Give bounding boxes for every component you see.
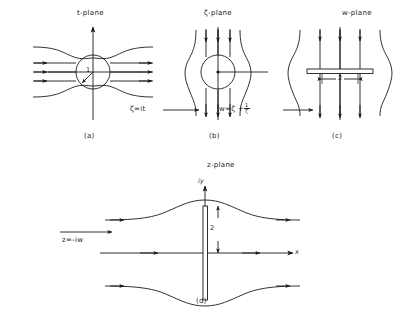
panel-a-streamline — [93, 85, 153, 97]
panel-a-title: t-plane — [77, 9, 104, 17]
panel-b-center-dot — [216, 70, 219, 73]
fraction-denominator: ζ — [244, 109, 249, 114]
panel-d-streamline — [205, 200, 300, 220]
transformation-w-to-z-rhs: -iw — [72, 236, 83, 244]
figure-linework: | under plate --> — [0, 0, 401, 315]
panel-d-caption: (d) — [196, 297, 207, 305]
transformation-t-to-zeta: ζ=it — [130, 105, 146, 113]
conformal-mapping-figure: | under plate --> — [0, 0, 401, 315]
panel-c-plate-body — [307, 69, 373, 74]
panel-d-y-axis-label: iy — [198, 177, 204, 185]
panel-d-title: z-plane — [207, 161, 235, 169]
panel-a-streamline — [93, 47, 153, 59]
panel-b-caption: (b) — [209, 132, 220, 140]
panel-d-dimension-label: 2 — [210, 224, 214, 232]
panel-a-caption: (a) — [84, 132, 95, 140]
panel-a-radius-label: 1 — [86, 66, 90, 74]
panel-d-streamline — [105, 286, 205, 306]
panel-c-dimension-label: 2 — [338, 74, 342, 82]
panel-b-streamline — [185, 30, 196, 116]
transformation-arrows — [60, 110, 313, 232]
panel-c-caption: (c) — [332, 132, 342, 140]
panel-d-artwork — [100, 186, 300, 306]
panel-c-streamline — [380, 30, 392, 116]
transformation-w-to-z: z=-iw — [62, 236, 83, 244]
panel-b-title: ζ-plane — [204, 9, 232, 17]
transformation-zeta-to-w-rhs-head: ζ + — [231, 105, 244, 113]
panel-d-x-axis-label: x — [295, 248, 299, 256]
panel-a-streamline — [33, 47, 93, 59]
panel-d-plate-body — [203, 206, 208, 300]
panel-d-streamline — [105, 200, 205, 220]
panel-c-title: w-plane — [342, 9, 372, 17]
panel-c-streamline — [288, 30, 300, 116]
transformation-t-to-zeta-rhs: it — [140, 105, 145, 113]
transformation-zeta-to-w-fraction: 1ζ — [244, 103, 249, 115]
panel-d-streamline — [205, 286, 300, 306]
panel-a-streamline — [33, 85, 93, 97]
transformation-zeta-to-w: w=ζ +1ζ — [219, 103, 250, 115]
